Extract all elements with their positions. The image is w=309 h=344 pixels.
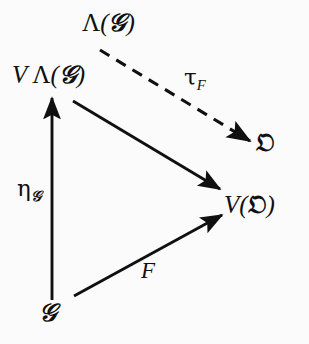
eta-subscript: 𝒢	[31, 189, 41, 204]
fraktur-o-glyph: 𝔒	[248, 190, 267, 219]
edge-label-eta-g: η𝒢	[17, 177, 41, 203]
edge-v-eta-arrow	[73, 101, 220, 189]
paren-open: (	[239, 191, 247, 218]
fraktur-o-glyph: 𝔒	[256, 128, 275, 157]
script-g-glyph: 𝒢	[108, 8, 126, 37]
edge-tau-f-arrow	[100, 50, 250, 141]
script-g-glyph: 𝒢	[39, 298, 57, 327]
node-script-g: 𝒢	[39, 300, 57, 325]
paren-open: (	[50, 61, 58, 88]
lambda-glyph: Λ	[82, 9, 100, 36]
edge-label-f: F	[141, 259, 155, 282]
node-lambda-g: Λ(𝒢)	[82, 10, 135, 35]
node-v-fraktur-o: V(𝔒)	[224, 192, 275, 217]
paren-close: )	[77, 61, 85, 88]
node-fraktur-o: 𝔒	[256, 130, 275, 155]
eta-glyph: η	[17, 175, 31, 201]
edge-f-arrow	[74, 215, 222, 296]
commutative-diagram: Λ(𝒢) V Λ(𝒢) 𝔒 V(𝔒) 𝒢 τF η𝒢 F	[0, 0, 309, 344]
edge-label-tau-f: τF	[184, 66, 206, 92]
script-g-glyph: 𝒢	[59, 60, 77, 89]
v-glyph: V	[224, 191, 239, 218]
node-v-lambda-g: V Λ(𝒢)	[12, 62, 85, 87]
v-glyph: V	[12, 61, 27, 88]
paren-close: )	[267, 191, 275, 218]
tau-glyph: τ	[184, 64, 197, 90]
tau-subscript: F	[197, 78, 206, 93]
lambda-glyph: Λ	[32, 61, 50, 88]
f-glyph: F	[141, 258, 155, 283]
paren-close: )	[126, 9, 134, 36]
arrow-layer	[0, 0, 309, 344]
